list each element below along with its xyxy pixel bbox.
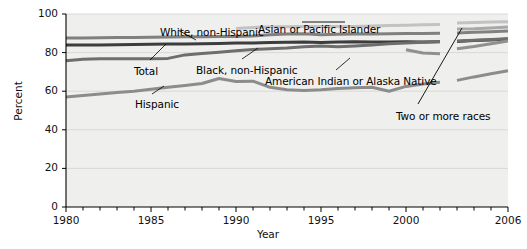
x-tick-label: 2000	[376, 214, 436, 226]
y-tick-label: 40	[24, 123, 58, 135]
y-tick-label: 0	[24, 200, 58, 212]
x-tick-label: 1985	[121, 214, 181, 226]
series-label: Two or more races	[396, 110, 490, 122]
x-tick-label: 1980	[36, 214, 96, 226]
series-label: Hispanic	[135, 98, 179, 110]
y-tick-label: 20	[24, 161, 58, 173]
series-label: White, non-Hispanic	[160, 26, 264, 38]
y-axis-title: Percent	[12, 66, 24, 136]
x-tick-label: 2006	[478, 214, 527, 226]
x-tick-label: 1995	[291, 214, 351, 226]
chart-container: 020406080100 198019851990199520002006 Pe…	[0, 0, 527, 249]
y-tick-label: 60	[24, 84, 58, 96]
series-label: Asian or Pacific Islander	[258, 23, 380, 35]
y-tick-label: 100	[24, 7, 58, 19]
x-tick-label: 1990	[206, 214, 266, 226]
series-label: American Indian or Alaska Native	[265, 75, 437, 87]
series-label: Total	[134, 65, 158, 77]
y-tick-label: 80	[24, 46, 58, 58]
x-axis-title: Year	[228, 228, 308, 240]
